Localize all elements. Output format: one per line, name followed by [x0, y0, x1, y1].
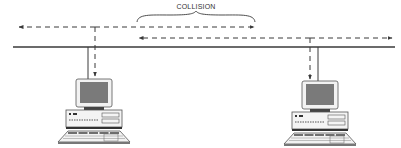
- right-computer-icon: [284, 81, 356, 146]
- collision-brace: [137, 11, 255, 22]
- collision-diagram: COLLISION: [0, 0, 401, 148]
- collision-label: COLLISION: [176, 3, 215, 10]
- right-signal-arrows: [139, 38, 392, 79]
- left-signal-arrows: [19, 27, 254, 76]
- left-computer-icon: [58, 79, 130, 144]
